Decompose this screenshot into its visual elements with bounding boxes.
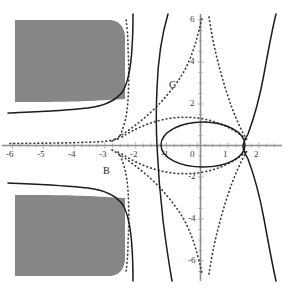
region-label-c: C bbox=[169, 80, 176, 90]
x-tick-label--5: -5 bbox=[37, 150, 45, 159]
y-tick-label--6: -6 bbox=[188, 256, 196, 265]
plot-canvas bbox=[0, 0, 284, 294]
solid-ellipse-contour bbox=[161, 122, 245, 167]
region-label-b: B bbox=[103, 166, 110, 176]
x-tick-label--1: -1 bbox=[161, 150, 169, 159]
x-tick-label-0: 0 bbox=[190, 150, 195, 159]
shaded-region-upper-left bbox=[15, 20, 126, 102]
x-tick-label--4: -4 bbox=[68, 150, 76, 159]
y-tick-label--2: -2 bbox=[188, 172, 196, 181]
shaded-region-lower-left bbox=[15, 195, 126, 277]
x-tick-label-1: 1 bbox=[223, 150, 228, 159]
x-tick-label-2: 2 bbox=[254, 150, 259, 159]
x-tick-label--3: -3 bbox=[99, 150, 107, 159]
contour-plot: -6 -5 -4 -3 -2 -1 0 1 2 6 4 2 -2 -4 -6 B… bbox=[0, 0, 284, 294]
y-tick-label-4: 4 bbox=[190, 57, 195, 66]
y-tick-label-6: 6 bbox=[190, 15, 195, 24]
solid-right-vertical-branch bbox=[243, 14, 276, 281]
dotted-axis-run bbox=[10, 138, 120, 144]
x-tick-label--2: -2 bbox=[130, 150, 138, 159]
y-tick-label-2: 2 bbox=[190, 99, 195, 108]
y-tick-label--4: -4 bbox=[188, 214, 196, 223]
x-tick-label--6: -6 bbox=[6, 150, 14, 159]
